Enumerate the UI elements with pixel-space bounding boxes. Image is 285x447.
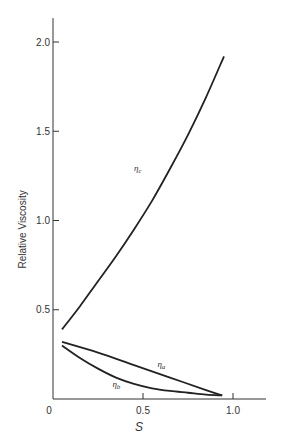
labels: SRelative Viscosityηcηaηb — [17, 163, 166, 434]
y-tick-label: 2.0 — [36, 37, 50, 48]
curves — [62, 56, 224, 395]
series-label: ηa — [157, 359, 165, 371]
x-tick-label: 0.5 — [136, 405, 150, 416]
axes: 0.51.01.52.00.51.00 — [36, 18, 266, 416]
x-axis-label: S — [135, 420, 143, 434]
curve-a — [62, 342, 222, 396]
y-tick-label: 1.0 — [36, 215, 50, 226]
y-axis-label: Relative Viscosity — [17, 190, 28, 268]
y-tick-label: 0.5 — [36, 304, 50, 315]
series-label: ηc — [134, 163, 142, 175]
origin-label: 0 — [46, 405, 52, 416]
x-tick-label: 1.0 — [226, 405, 240, 416]
curve-c — [62, 56, 224, 329]
y-tick-label: 1.5 — [36, 126, 50, 137]
relative-viscosity-chart: 0.51.01.52.00.51.00 SRelative Viscosityη… — [0, 0, 285, 447]
series-label: ηb — [112, 379, 120, 391]
